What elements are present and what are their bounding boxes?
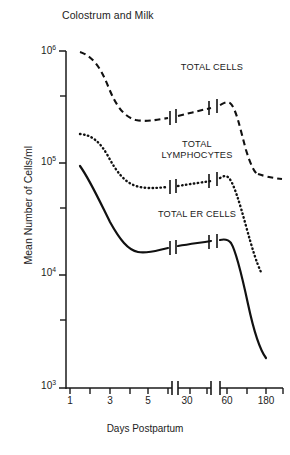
chart-plot-area [0, 0, 290, 455]
y-axis [59, 51, 66, 389]
x-axis [66, 381, 283, 395]
chart-figure: Colostrum and Milk Mean Number of Cells/… [0, 0, 290, 455]
series-total-er-cells [80, 166, 266, 358]
